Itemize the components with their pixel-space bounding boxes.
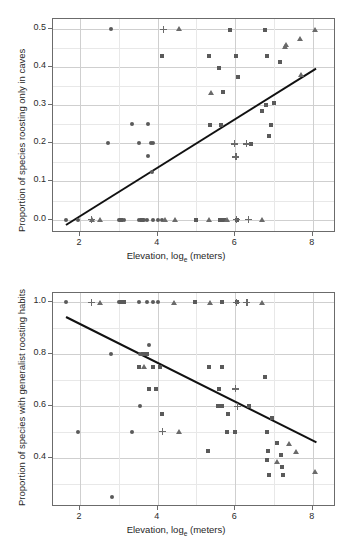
x-axis-tick bbox=[157, 232, 158, 236]
gridline-minor-horizontal bbox=[53, 162, 334, 163]
gridline-minor-horizontal bbox=[53, 86, 334, 87]
y-axis-tick bbox=[48, 104, 52, 105]
gridline-minor-horizontal bbox=[53, 484, 334, 485]
x-axis-tick bbox=[312, 232, 313, 236]
gridline-minor-horizontal bbox=[53, 48, 334, 49]
data-point-square bbox=[221, 90, 225, 94]
gridline-major-horizontal bbox=[53, 181, 334, 182]
data-point-square bbox=[279, 453, 283, 457]
data-point-square bbox=[265, 458, 269, 462]
data-point-triangle bbox=[141, 364, 147, 369]
y-axis-tick-label: 0.1 bbox=[16, 174, 46, 184]
x-axis-tick-label: 8 bbox=[297, 237, 327, 247]
x-axis-tick-label: 4 bbox=[142, 237, 172, 247]
data-point-square bbox=[278, 60, 282, 64]
y-axis-tick-label: 0.5 bbox=[16, 22, 46, 32]
data-point-square bbox=[206, 449, 210, 453]
x-axis-title-caves: Elevation, loge (meters) bbox=[0, 250, 352, 263]
gridline-minor-horizontal bbox=[53, 124, 334, 125]
gridline-major-vertical bbox=[158, 293, 159, 505]
gridline-major-vertical bbox=[80, 19, 81, 231]
plot-area-generalist bbox=[52, 292, 335, 506]
y-axis-tick bbox=[48, 142, 52, 143]
gridline-major-horizontal bbox=[53, 220, 334, 221]
x-axis-title-prefix: Elevation, log bbox=[127, 250, 184, 261]
x-axis-tick bbox=[157, 506, 158, 510]
x-axis-tick bbox=[79, 506, 80, 510]
y-axis-tick-label: 0.8 bbox=[16, 347, 46, 357]
gridline-major-vertical bbox=[235, 293, 236, 505]
data-point-square bbox=[265, 54, 269, 58]
plot-area-caves bbox=[52, 18, 335, 232]
data-point-square bbox=[151, 365, 155, 369]
x-axis-tick-label: 2 bbox=[64, 237, 94, 247]
y-axis-tick bbox=[48, 405, 52, 406]
y-axis-tick bbox=[48, 28, 52, 29]
gridline-major-horizontal bbox=[53, 406, 334, 407]
gridline-minor-vertical bbox=[196, 19, 197, 231]
gridline-minor-vertical bbox=[274, 19, 275, 231]
data-point-circle bbox=[147, 343, 151, 347]
x-axis-tick-label: 4 bbox=[142, 511, 172, 521]
y-axis-tick-label: 0.2 bbox=[16, 136, 46, 146]
data-point-square bbox=[137, 365, 141, 369]
data-point-square bbox=[147, 387, 151, 391]
x-axis-title-suffix: (meters) bbox=[187, 524, 225, 535]
gridline-major-horizontal bbox=[53, 29, 334, 30]
y-axis-tick-label: 0.0 bbox=[16, 213, 46, 223]
data-point-triangle bbox=[208, 90, 214, 95]
gridline-major-vertical bbox=[235, 19, 236, 231]
x-axis-tick-label: 2 bbox=[64, 511, 94, 521]
x-axis-tick bbox=[312, 506, 313, 510]
x-axis-title-generalist: Elevation, loge (meters) bbox=[0, 524, 352, 537]
figure-two-panel-scatter: Proportion of species roosting only in c… bbox=[0, 0, 352, 548]
data-point-square bbox=[226, 412, 230, 416]
data-point-triangle bbox=[293, 449, 299, 454]
data-point-square bbox=[260, 109, 264, 113]
data-point-square bbox=[266, 449, 270, 453]
y-axis-tick bbox=[48, 301, 52, 302]
panel-generalist: Proportion of species with generalist ro… bbox=[0, 274, 352, 548]
data-point-square bbox=[280, 465, 284, 469]
gridline-major-horizontal bbox=[53, 302, 334, 303]
data-point-square bbox=[217, 387, 221, 391]
gridline-minor-horizontal bbox=[53, 328, 334, 329]
data-point-square bbox=[160, 54, 164, 58]
y-axis-tick-label: 0.3 bbox=[16, 98, 46, 108]
y-axis-title-generalist: Proportion of species with generalist ro… bbox=[16, 289, 27, 506]
x-axis-tick-label: 6 bbox=[219, 511, 249, 521]
gridline-major-vertical bbox=[158, 19, 159, 231]
data-point-circle bbox=[110, 495, 114, 499]
x-axis-tick bbox=[79, 232, 80, 236]
data-point-square bbox=[275, 441, 279, 445]
data-point-circle bbox=[146, 154, 150, 158]
gridline-major-horizontal bbox=[53, 105, 334, 106]
y-axis-tick-label: 1.0 bbox=[16, 295, 46, 305]
y-axis-tick-label: 0.4 bbox=[16, 451, 46, 461]
y-axis-tick bbox=[48, 219, 52, 220]
gridline-major-vertical bbox=[313, 293, 314, 505]
y-axis-tick bbox=[48, 457, 52, 458]
x-axis-tick-label: 8 bbox=[297, 511, 327, 521]
data-point-square bbox=[281, 473, 285, 477]
x-axis-title-prefix: Elevation, log bbox=[127, 524, 184, 535]
panel-caves: Proportion of species roosting only in c… bbox=[0, 0, 352, 274]
y-axis-tick bbox=[48, 66, 52, 67]
gridline-minor-horizontal bbox=[53, 432, 334, 433]
data-point-square bbox=[267, 473, 271, 477]
data-point-square bbox=[207, 54, 211, 58]
data-point-square bbox=[160, 412, 164, 416]
gridline-major-vertical bbox=[313, 19, 314, 231]
data-point-square bbox=[263, 375, 267, 379]
data-point-square bbox=[207, 365, 211, 369]
gridline-minor-horizontal bbox=[53, 201, 334, 202]
gridline-major-horizontal bbox=[53, 458, 334, 459]
gridline-minor-vertical bbox=[196, 293, 197, 505]
y-axis-tick bbox=[48, 180, 52, 181]
x-axis-tick-label: 6 bbox=[219, 237, 249, 247]
gridline-major-horizontal bbox=[53, 354, 334, 355]
gridline-minor-vertical bbox=[119, 293, 120, 505]
data-point-square bbox=[220, 365, 224, 369]
y-axis-tick-label: 0.6 bbox=[16, 399, 46, 409]
x-axis-title-suffix: (meters) bbox=[187, 250, 225, 261]
